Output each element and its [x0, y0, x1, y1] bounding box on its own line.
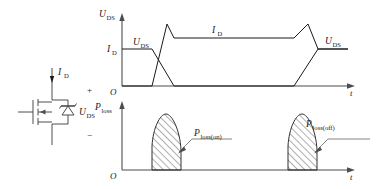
- bottom-chart-y-axis-arrow-icon: [119, 101, 124, 109]
- circuit-current-sub: D: [64, 72, 69, 79]
- diode-triangle: [62, 106, 74, 115]
- body-arrow-icon: [40, 110, 46, 115]
- p-loss-on-sub: loss(on): [201, 133, 222, 141]
- chart-bottom-power-loss: P loss O t P loss(on) P loss(off): [94, 101, 370, 182]
- uds-waveform-path: [122, 49, 348, 86]
- body-diode-icon: [52, 100, 77, 124]
- top-chart-x-axis-label: t: [350, 88, 353, 98]
- p-loss-off-pulse: [288, 114, 317, 170]
- top-chart-y-axis-sub: DS: [107, 14, 116, 21]
- bottom-chart-y-axis-sub: loss: [102, 107, 113, 114]
- bottom-chart-origin-label: O: [110, 171, 117, 181]
- chart-top-waveforms: U DS I D O t U DS I D U DS: [99, 9, 355, 98]
- p-loss-off-leader-line: [315, 139, 370, 152]
- top-chart-y-tick-label: I: [106, 44, 111, 54]
- mosfet-circuit-symbol: I D + − U DS: [18, 67, 95, 145]
- p-loss-on-pulse: [152, 114, 181, 170]
- p-loss-on-leader-line: [179, 139, 232, 152]
- top-chart-origin-label: O: [110, 87, 117, 97]
- diode-flag-right: [75, 104, 77, 107]
- p-loss-off-label: P: [305, 119, 312, 129]
- bottom-chart-y-axis-label: P: [94, 102, 101, 112]
- uds-right-annotation-sub: DS: [333, 41, 342, 48]
- drain-current-arrow-icon: [50, 76, 54, 83]
- p-loss-on-label: P: [193, 128, 200, 138]
- circuit-current-label: I: [57, 67, 62, 77]
- switching-loss-figure: I D + − U DS U DS I D O t U DS I D: [0, 0, 376, 189]
- uds-left-annotation-sub: DS: [141, 42, 150, 49]
- circuit-voltage-sub: DS: [87, 112, 96, 119]
- bottom-chart-x-axis-label: t: [350, 172, 353, 182]
- id-annotation-label: I: [211, 25, 216, 35]
- top-chart-y-axis-arrow-icon: [119, 13, 124, 21]
- polarity-plus: +: [87, 85, 92, 95]
- diode-flag-left: [60, 106, 62, 109]
- polarity-minus: −: [87, 130, 92, 140]
- p-loss-off-sub: loss(off): [313, 124, 335, 132]
- id-annotation-sub: D: [218, 30, 223, 37]
- top-chart-y-tick-sub: D: [112, 49, 117, 56]
